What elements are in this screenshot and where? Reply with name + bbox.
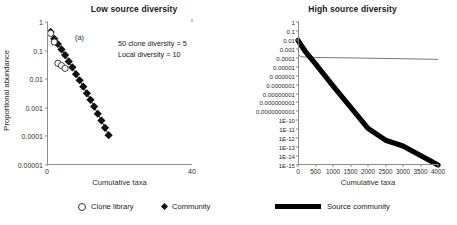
panel-b-ytick-mark <box>296 129 299 130</box>
panel-b-ytick: 0.000000001 <box>259 99 298 106</box>
panel-b-ytick-mark <box>296 84 299 85</box>
panel-b-xtick-mark <box>438 164 439 167</box>
panel-b-xtick-mark <box>333 164 334 167</box>
panel-b-ytick-mark <box>296 30 299 31</box>
figure-legend: Clone library Community Source community <box>0 196 457 225</box>
panel-b-data-layer <box>298 22 438 165</box>
legend-label-source-community: Source community <box>327 202 390 211</box>
panel-a-x-axis <box>47 164 192 165</box>
panel-a-ytick-mark <box>45 79 48 80</box>
panel-b-ytick-mark <box>296 22 299 23</box>
panel-a-title: Low source diversity <box>0 4 248 14</box>
open-circle-icon <box>78 203 86 211</box>
panel-b-xtick-mark <box>368 164 369 167</box>
panel-a-x-axis-label: Cumulative taxa <box>47 178 192 187</box>
panel-a-ytick-mark <box>45 22 48 23</box>
figure-container: Low source diversity Proportional abunda… <box>0 0 457 225</box>
filled-diamond-icon <box>161 203 168 210</box>
legend-label-community: Community <box>172 202 210 211</box>
panel-b-ytick-mark <box>296 147 299 148</box>
panel-high-source-diversity: High source diversity (b) 500 clone dive… <box>228 0 457 195</box>
panel-b-ytick-mark <box>296 156 299 157</box>
panel-a-ytick-mark <box>45 50 48 51</box>
panel-b-ytick: 0.00001 <box>273 63 298 70</box>
legend-item-source-community: Source community <box>275 202 390 211</box>
panel-a-ytick: 0.00001 <box>18 162 47 169</box>
panel-a-plot-area: 1 0.1 0.01 0.001 0.0001 0.00001 0 40 <box>47 22 192 165</box>
panel-b-ytick-mark <box>296 102 299 103</box>
panel-b-ytick-mark <box>296 75 299 76</box>
panel-b-xtick-mark <box>385 164 386 167</box>
panel-b-ytick-mark <box>296 120 299 121</box>
panel-b-ytick: 0.0000000001 <box>256 108 298 115</box>
panel-b-ytick: 0.00000001 <box>263 90 298 97</box>
panel-b-ytick-mark <box>296 93 299 94</box>
panel-b-x-axis-label: Cumulative taxa <box>298 178 438 187</box>
y-axis-label: Proportional abundance <box>2 50 11 131</box>
thick-line-icon <box>275 204 321 209</box>
legend-label-clone-library: Clone library <box>91 202 134 211</box>
panel-b-ytick-mark <box>296 57 299 58</box>
panel-b-ytick: 0.0000001 <box>266 81 298 88</box>
panel-b-xtick-mark <box>350 164 351 167</box>
panel-b-title: High source diversity <box>228 4 457 14</box>
panel-b-ytick-mark <box>296 138 299 139</box>
panel-a-xtick-mark <box>192 19 193 22</box>
panel-b-xtick-mark <box>298 164 299 167</box>
legend-item-community: Community <box>162 202 210 211</box>
panel-b-xtick-mark <box>403 164 404 167</box>
panel-b-ytick-mark <box>296 39 299 40</box>
panel-b-ytick-mark <box>296 66 299 67</box>
panel-b-ytick-mark <box>296 111 299 112</box>
panel-b-plot-area: 10.10.010.0010.00010.000010.0000010.0000… <box>298 22 438 165</box>
legend-item-clone-library: Clone library <box>78 202 134 211</box>
panel-low-source-diversity: Low source diversity Proportional abunda… <box>0 0 228 195</box>
panel-b-xtick-mark <box>315 164 316 167</box>
panel-a-y-axis <box>47 22 48 165</box>
panel-a-ytick-mark <box>45 107 48 108</box>
panel-a-data-layer <box>47 22 192 165</box>
panel-b-ytick-mark <box>296 48 299 49</box>
panel-a-ytick-mark <box>45 136 48 137</box>
panel-a-xtick: 40 <box>188 165 196 175</box>
panel-b-ytick: 0.000001 <box>270 72 298 79</box>
panel-a-ytick: 0.0001 <box>22 133 47 140</box>
panel-b-xtick-mark <box>420 164 421 167</box>
panel-a-xtick: 0 <box>45 165 49 175</box>
